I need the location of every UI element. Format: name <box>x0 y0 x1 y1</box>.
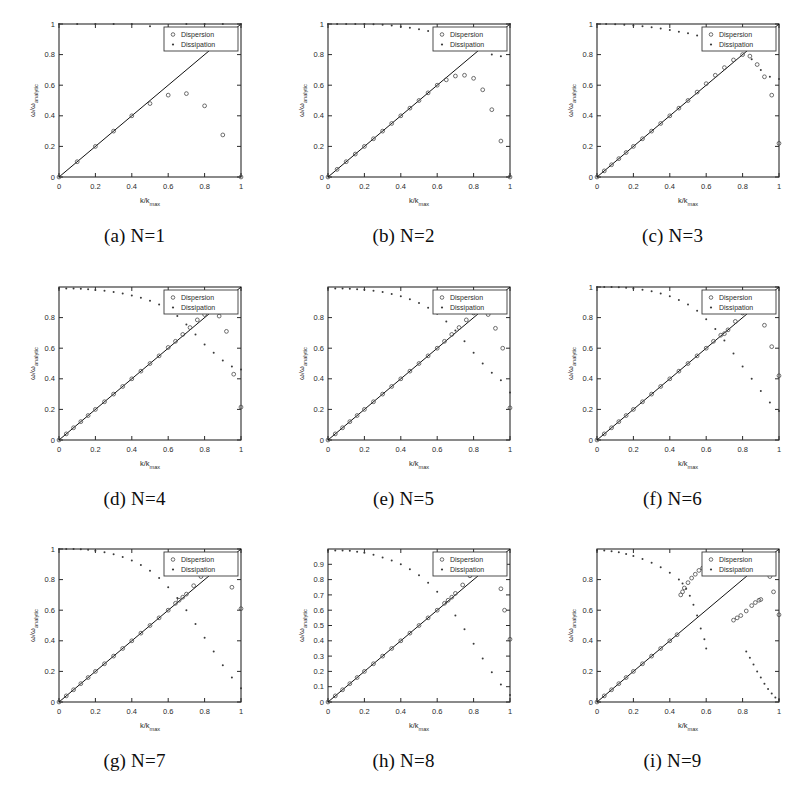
data-point <box>176 597 178 599</box>
data-point <box>731 58 735 62</box>
data-point <box>697 569 701 573</box>
data-point <box>732 353 734 355</box>
data-point <box>149 25 151 27</box>
data-point <box>744 609 748 613</box>
legend-dissipation-label: Dissipation <box>450 566 484 574</box>
y-axis: 00.20.40.60.8 <box>582 575 778 706</box>
legend: DispersionDissipation <box>702 552 776 576</box>
y-tick-label: 0 <box>319 698 323 707</box>
data-point <box>650 26 652 28</box>
data-point <box>363 552 365 554</box>
y-tick-label: 0.8 <box>582 313 592 322</box>
data-point <box>460 583 464 587</box>
data-point <box>327 288 329 290</box>
data-point <box>759 677 761 679</box>
data-point <box>230 366 232 368</box>
data-point <box>762 75 766 79</box>
data-point <box>685 588 687 590</box>
data-point <box>623 24 625 26</box>
data-point <box>445 602 447 604</box>
panel-caption-g: (g) N=7 <box>103 750 165 772</box>
x-tick-label: 0.6 <box>700 445 710 454</box>
data-point <box>327 550 329 552</box>
x-tick-label: 0.4 <box>126 445 136 454</box>
data-point <box>650 562 652 564</box>
x-tick-label: 0 <box>325 182 329 191</box>
legend-dispersion-label: Dispersion <box>181 294 214 302</box>
data-point <box>705 318 707 320</box>
y-tick-label: 0 <box>319 173 323 182</box>
data-point <box>139 564 141 566</box>
data-point <box>121 556 123 558</box>
data-point <box>689 576 693 580</box>
panel-c: 00.20.40.60.8100.20.40.60.81k/kmaxω/ωana… <box>538 0 807 263</box>
data-point <box>188 326 192 330</box>
data-point <box>668 295 670 297</box>
data-point <box>149 300 151 302</box>
data-point <box>596 286 598 288</box>
data-point <box>381 24 383 26</box>
x-tick-label: 0.4 <box>664 707 674 716</box>
y-tick-label: 0.4 <box>582 111 592 120</box>
data-point <box>750 58 752 60</box>
x-tick-label: 0.6 <box>431 445 441 454</box>
x-tick-label: 0.4 <box>664 182 674 191</box>
data-point <box>692 604 694 606</box>
data-point <box>625 553 627 555</box>
y-tick-label: 0 <box>50 436 54 445</box>
y-tick-label: 0.8 <box>44 313 54 322</box>
y-tick-label: 0.6 <box>313 81 323 90</box>
y-tick-label: 0.2 <box>44 405 54 414</box>
y-axis-label: ω/ωanalytic <box>28 84 39 117</box>
data-point <box>418 574 420 576</box>
data-point <box>94 550 96 552</box>
data-point <box>723 340 725 342</box>
data-point <box>499 587 503 591</box>
data-point <box>748 657 750 659</box>
data-point <box>390 293 392 295</box>
x-tick-label: 0.8 <box>737 707 747 716</box>
x-tick-label: 1 <box>507 182 511 191</box>
data-point <box>499 683 501 685</box>
data-point <box>659 566 661 568</box>
plot-area-c: 00.20.40.60.8100.20.40.60.81k/kmaxω/ωana… <box>557 14 789 219</box>
data-point <box>462 73 466 77</box>
figure-panel-grid: 00.20.40.60.8100.20.40.60.81k/kmaxω/ωana… <box>0 0 807 806</box>
y-axis-label: ω/ωanalytic <box>28 609 39 642</box>
data-point <box>217 314 221 318</box>
data-point <box>650 290 652 292</box>
x-tick-label: 0.8 <box>468 707 478 716</box>
x-tick-label: 0.2 <box>628 445 638 454</box>
data-point <box>212 352 214 354</box>
series-dispersion <box>57 310 243 442</box>
data-point <box>418 302 420 304</box>
y-tick-label: 0.5 <box>313 621 323 630</box>
data-point <box>463 628 465 630</box>
y-tick-label: 0.6 <box>313 344 323 353</box>
y-tick-label: 0.2 <box>44 142 54 151</box>
data-point <box>408 27 410 29</box>
x-tick-label: 0.2 <box>90 182 100 191</box>
data-point <box>79 548 81 550</box>
y-tick-label: 0 <box>50 698 54 707</box>
legend-dispersion-label: Dispersion <box>181 556 214 564</box>
plot-area-a: 00.20.40.60.8100.20.40.60.81k/kmaxω/ωana… <box>19 14 251 219</box>
data-point <box>194 623 196 625</box>
data-point <box>768 76 770 78</box>
data-point <box>668 29 670 31</box>
data-point <box>356 551 358 553</box>
panel-caption-c: (c) N=3 <box>642 225 703 247</box>
data-point <box>399 295 401 297</box>
y-tick-label: 0.6 <box>313 606 323 615</box>
x-tick-label: 0.8 <box>468 182 478 191</box>
x-tick-label: 0.6 <box>700 707 710 716</box>
legend-dissipation-marker-icon <box>440 43 442 45</box>
y-tick-label: 0.4 <box>44 636 54 645</box>
data-point <box>185 323 187 325</box>
panel-g: 00.20.40.60.8100.20.40.60.81k/kmaxω/ωana… <box>0 525 269 806</box>
data-point <box>166 93 170 97</box>
data-point <box>472 643 474 645</box>
legend: DispersionDissipation <box>702 290 776 314</box>
panel-caption-b: (b) N=2 <box>372 225 434 247</box>
data-point <box>334 288 336 290</box>
